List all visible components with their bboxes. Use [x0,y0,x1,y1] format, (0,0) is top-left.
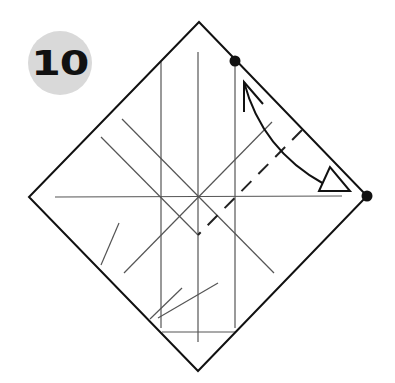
origami-diagram [0,0,395,383]
fold-unfold-arrow [244,82,350,191]
reference-dot-top [230,56,241,67]
reference-dot-right [362,191,373,202]
crease-lines [55,52,342,342]
valley-fold-line [198,130,302,235]
